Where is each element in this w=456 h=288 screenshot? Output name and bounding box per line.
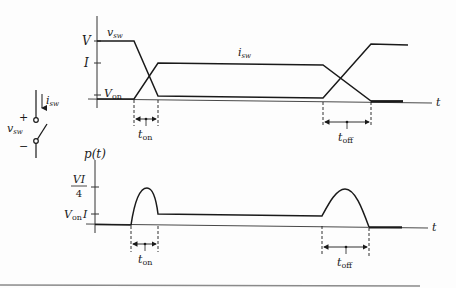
switch-blade — [38, 124, 48, 139]
bottom-rule — [0, 285, 420, 286]
p-ton-label: ton — [138, 253, 152, 267]
vsw-curve-label: vsw — [107, 26, 123, 40]
ton-label: ton — [138, 128, 152, 142]
bottom-plot: t p(t) VI 4 VonI ton toff — [64, 147, 437, 270]
isw-curve-label: isw — [238, 46, 251, 60]
top-t-axis-label: t — [436, 96, 441, 109]
top-plot: t V I Von vsw isw ton toff — [82, 16, 441, 145]
tick-label-VI-den: 4 — [76, 188, 82, 199]
tick-label-VI-num: VI — [73, 173, 86, 186]
isw-waveform — [97, 63, 403, 101]
p-t-axis-label: p(t) — [84, 147, 106, 161]
minus-sign: − — [19, 140, 28, 153]
switch-current-label: isw — [46, 94, 59, 108]
plus-sign: + — [19, 111, 28, 124]
switch-voltage-label: vsw — [7, 122, 23, 136]
tick-label-I: I — [83, 56, 89, 70]
toff-label: toff — [338, 131, 354, 145]
switching-waveforms-diagram: isw + vsw − t V I Von vsw isw ton — [0, 0, 456, 288]
switch-bottom-terminal — [34, 139, 39, 144]
switch-top-terminal — [34, 118, 39, 123]
tick-label-V: V — [82, 34, 92, 48]
bottom-t-axis-label: t — [432, 221, 437, 234]
tick-label-VonI: VonI — [64, 208, 88, 222]
switch-symbol: isw + vsw − — [7, 90, 59, 158]
power-waveform — [95, 188, 369, 227]
vsw-waveform — [97, 41, 408, 98]
p-toff-label: toff — [337, 256, 353, 270]
